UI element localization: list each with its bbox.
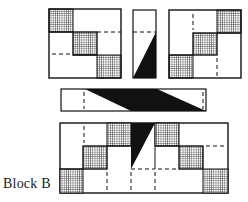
block-caption: Block B xyxy=(3,176,51,192)
left-square-unit xyxy=(49,9,121,78)
horizontal-bar xyxy=(61,89,206,111)
block-diagram xyxy=(0,0,248,202)
narrow-strip xyxy=(133,10,156,78)
assembled-block xyxy=(60,123,228,193)
right-square-unit xyxy=(169,10,241,78)
